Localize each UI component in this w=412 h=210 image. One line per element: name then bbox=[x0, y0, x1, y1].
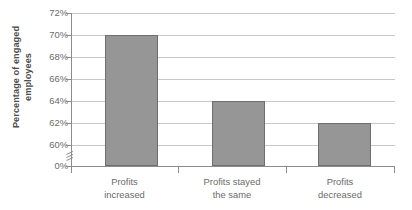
x-category-label-line2: decreased bbox=[286, 189, 394, 202]
bar-profits-increased bbox=[105, 35, 158, 166]
y-tick-label-68: 68% bbox=[34, 52, 68, 62]
y-axis-title-line1: Percentage of engaged bbox=[11, 2, 23, 152]
y-tick-label-64: 64% bbox=[34, 96, 68, 106]
x-category-label-line1: Profits bbox=[286, 176, 394, 189]
x-category-label-line2: the same bbox=[178, 189, 286, 202]
y-tick-label-66: 66% bbox=[34, 74, 68, 84]
y-tick-label-72: 72% bbox=[34, 8, 68, 18]
y-axis-tick-labels: 72% 70% 68% 66% 64% 62% 60% 0% bbox=[34, 0, 68, 210]
y-tick-label-62: 62% bbox=[34, 118, 68, 128]
x-tick-mark-2 bbox=[286, 167, 287, 173]
x-axis-line bbox=[71, 166, 395, 167]
bar-chart: Percentage of engaged employees 72% 70% … bbox=[0, 0, 412, 210]
x-category-label-profits-stayed-the-same: Profits stayed the same bbox=[178, 176, 286, 201]
axis-break-icon bbox=[64, 149, 76, 163]
y-axis-title-line2: employees bbox=[23, 2, 35, 152]
gridline-72 bbox=[72, 13, 395, 14]
x-category-label-line1: Profits stayed bbox=[178, 176, 286, 189]
x-tick-mark-1 bbox=[178, 167, 179, 173]
x-category-label-profits-decreased: Profits decreased bbox=[286, 176, 394, 201]
x-category-label-line2: increased bbox=[71, 189, 178, 202]
y-axis-line bbox=[71, 13, 72, 167]
bar-profits-stayed-the-same bbox=[212, 101, 265, 166]
x-category-label-profits-increased: Profits increased bbox=[71, 176, 178, 201]
y-tick-label-70: 70% bbox=[34, 30, 68, 40]
plot-area bbox=[72, 13, 395, 167]
y-tick-label-60: 60% bbox=[34, 140, 68, 150]
y-tick-label-0: 0% bbox=[34, 161, 68, 171]
x-tick-mark-3 bbox=[394, 167, 395, 173]
x-tick-mark-0 bbox=[71, 167, 72, 173]
bar-profits-decreased bbox=[318, 123, 371, 166]
x-category-label-line1: Profits bbox=[71, 176, 178, 189]
